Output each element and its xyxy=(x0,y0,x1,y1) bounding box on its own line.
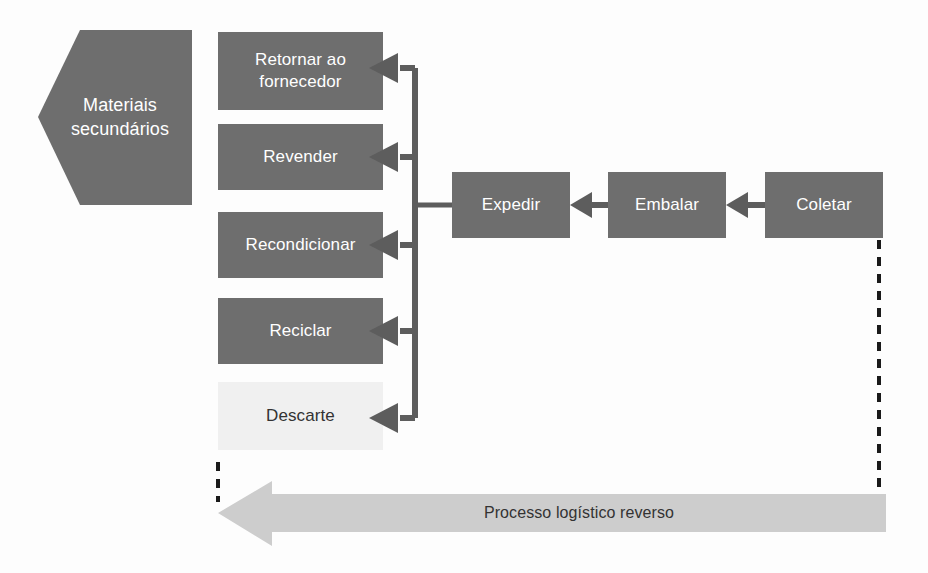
coletar-box xyxy=(765,172,883,238)
recondicionar-box xyxy=(218,212,383,278)
arrow-coletar-to-embalar xyxy=(726,192,765,218)
diagram-canvas xyxy=(0,0,928,573)
reciclar-box xyxy=(218,298,383,364)
expedir-box xyxy=(452,172,570,238)
materiais-secundarios-shape xyxy=(38,30,192,205)
embalar-box xyxy=(608,172,726,238)
arrow-embalar-to-expedir xyxy=(570,192,608,218)
processo-logistico-reverso-arrow xyxy=(218,481,886,546)
revender-box xyxy=(218,124,383,190)
reverse-logistics-diagram: Materiais secundários Retornar ao fornec… xyxy=(0,0,928,573)
descarte-box xyxy=(218,382,383,450)
retornar-ao-fornecedor-box xyxy=(218,32,383,110)
